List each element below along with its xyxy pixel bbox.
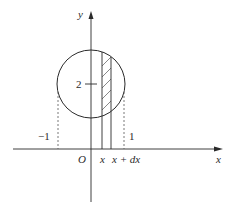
strip-right-label: x + dx — [111, 153, 140, 165]
diagram-canvas: y 2 −1 1 O x x + dx x — [0, 0, 231, 212]
right-bound-label: 1 — [129, 130, 135, 142]
tick-label-2: 2 — [76, 78, 82, 90]
y-axis-label: y — [77, 8, 83, 20]
x-axis-arrow-icon — [214, 147, 223, 152]
hatched-strip — [102, 57, 111, 121]
x-axis-label: x — [215, 153, 221, 165]
left-bound-label: −1 — [38, 130, 50, 142]
y-axis — [89, 11, 94, 202]
strip-left-label: x — [99, 153, 105, 165]
x-axis — [13, 147, 223, 152]
y-axis-arrow-icon — [89, 11, 94, 19]
origin-label: O — [78, 153, 86, 165]
